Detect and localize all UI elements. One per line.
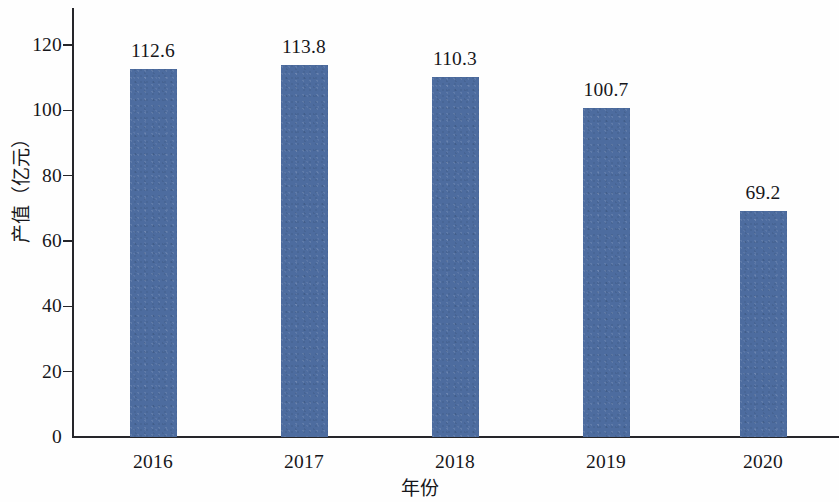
bar	[583, 108, 630, 437]
bar-value-label: 113.8	[254, 37, 354, 57]
bar	[130, 69, 177, 437]
y-axis-tick-label: 120	[4, 35, 62, 55]
x-axis-category-label: 2018	[405, 452, 505, 472]
x-axis-category-label: 2016	[103, 452, 203, 472]
y-axis-tick	[63, 44, 73, 46]
y-axis-tick	[63, 371, 73, 373]
y-axis-tick-label: 40	[4, 296, 62, 316]
bar-value-label: 69.2	[713, 183, 813, 203]
x-axis-category-label: 2020	[713, 452, 813, 472]
bar-value-label: 112.6	[103, 41, 203, 61]
bar	[432, 77, 479, 437]
y-axis-tick	[63, 306, 73, 308]
y-axis-tick	[63, 175, 73, 177]
y-axis-tick-label: 0	[4, 427, 62, 447]
x-axis-category-label: 2017	[254, 452, 354, 472]
plot-area: 产值（亿元） 020406080100120 112.6113.8110.310…	[0, 0, 839, 502]
bar-value-label: 110.3	[405, 49, 505, 69]
bar-chart: 产值（亿元） 020406080100120 112.6113.8110.310…	[0, 0, 839, 502]
x-axis-category-label: 2019	[556, 452, 656, 472]
y-axis-tick	[63, 240, 73, 242]
y-axis-tick-label: 80	[4, 166, 62, 186]
bar-value-label: 100.7	[556, 80, 656, 100]
y-axis-tick-label: 60	[4, 231, 62, 251]
y-axis-tick	[63, 110, 73, 112]
y-axis-line	[72, 8, 74, 438]
x-axis-title: 年份	[0, 479, 839, 498]
bar	[281, 65, 328, 437]
bar	[740, 211, 787, 437]
y-axis-tick-label: 100	[4, 100, 62, 120]
y-axis-tick-label: 20	[4, 362, 62, 382]
